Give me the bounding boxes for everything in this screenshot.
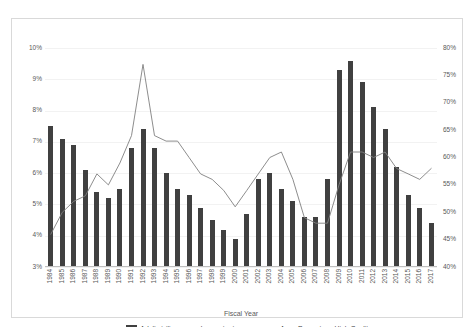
chart-page: 10%9%8%7%6%5%4%3% 80%75%70%65%60%55%50%4… <box>0 0 474 327</box>
x-axis-tick-label: 2009 <box>336 269 343 283</box>
x-axis-tick-label: 1995 <box>174 269 181 283</box>
right-axis-tick-label: 40% <box>443 264 456 271</box>
x-axis-tick-label: 1997 <box>197 269 204 283</box>
chart-legend: Adult civilian unemployment rate Army Pe… <box>23 321 474 327</box>
x-axis-tick-label: 2006 <box>301 269 308 283</box>
right-axis-tick-label: 75% <box>443 72 456 79</box>
left-axis-tick-label: 9% <box>33 76 42 83</box>
x-axis-tick-label: 2000 <box>232 269 239 283</box>
x-axis-tick-label: 1989 <box>105 269 112 283</box>
left-axis-tick-label: 4% <box>33 232 42 239</box>
x-axis-tick-label: 2001 <box>243 269 250 283</box>
x-axis-line <box>45 266 437 267</box>
left-axis-tick-label: 7% <box>33 138 42 145</box>
cropped-header-text <box>0 0 474 14</box>
gridline <box>45 267 437 268</box>
right-axis-tick-label: 80% <box>443 45 456 52</box>
left-axis-tick-label: 8% <box>33 107 42 114</box>
x-axis-tick-label: 2017 <box>428 269 435 283</box>
x-axis-tick-label: 1996 <box>186 269 193 283</box>
left-axis-tick-label: 6% <box>33 170 42 177</box>
x-axis-tick-label: 1985 <box>59 269 66 283</box>
x-axis-tick-label: 1998 <box>209 269 216 283</box>
line-series-army-percentage-high-quality <box>45 48 437 267</box>
chart-frame: 10%9%8%7%6%5%4%3% 80%75%70%65%60%55%50%4… <box>11 18 463 318</box>
x-axis-tick-label: 2010 <box>347 269 354 283</box>
x-axis-tick-label: 2015 <box>405 269 412 283</box>
x-axis-tick-label: 2012 <box>370 269 377 283</box>
x-axis-tick-label: 1986 <box>70 269 77 283</box>
x-axis-tick-label: 1987 <box>82 269 89 283</box>
x-axis-tick-label: 2004 <box>278 269 285 283</box>
right-axis-tick-labels: 80%75%70%65%60%55%50%45%40% <box>441 48 465 267</box>
x-axis-tick-label: 2002 <box>255 269 262 283</box>
x-axis-tick-label: 2014 <box>393 269 400 283</box>
x-axis-tick-label: 1988 <box>93 269 100 283</box>
x-axis-title: Fiscal Year <box>45 310 437 317</box>
x-axis-tick-label: 1993 <box>151 269 158 283</box>
right-axis-tick-label: 70% <box>443 99 456 106</box>
x-axis-tick-label: 1984 <box>47 269 54 283</box>
right-axis-tick-label: 55% <box>443 181 456 188</box>
x-axis-tick-label: 2007 <box>312 269 319 283</box>
x-axis-tick-label: 2013 <box>382 269 389 283</box>
x-axis-tick-label: 2008 <box>324 269 331 283</box>
x-axis-tick-label: 1999 <box>220 269 227 283</box>
x-axis-tick-label: 1991 <box>128 269 135 283</box>
right-axis-tick-label: 60% <box>443 154 456 161</box>
x-axis-tick-label: 2016 <box>416 269 423 283</box>
x-axis-tick-label: 1992 <box>140 269 147 283</box>
right-axis-tick-label: 50% <box>443 209 456 216</box>
x-axis-tick-label: 2003 <box>266 269 273 283</box>
x-axis-tick-label: 2011 <box>359 269 366 283</box>
x-axis-tick-label: 2005 <box>289 269 296 283</box>
right-axis-tick-label: 65% <box>443 127 456 134</box>
left-axis-tick-label: 10% <box>29 45 42 52</box>
x-axis-tick-label: 1994 <box>163 269 170 283</box>
left-axis-tick-label: 3% <box>33 264 42 271</box>
right-axis-tick-label: 45% <box>443 236 456 243</box>
x-axis-tick-label: 1990 <box>116 269 123 283</box>
x-axis-tick-labels: 1984198519861987198819891990199119921993… <box>45 269 437 313</box>
left-axis-tick-labels: 10%9%8%7%6%5%4%3% <box>22 48 42 267</box>
plot-area <box>45 48 437 267</box>
left-axis-tick-label: 5% <box>33 201 42 208</box>
